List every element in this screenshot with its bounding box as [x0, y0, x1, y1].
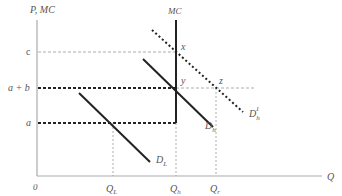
demand-curve-high-shifted [152, 30, 243, 112]
price-label-a-plus-b: a + b [8, 82, 30, 93]
mc-label: MC [167, 6, 182, 16]
demand-low-label: DL [155, 154, 167, 168]
demand-curve-high [143, 59, 213, 127]
point-x-label: x [180, 41, 186, 52]
economics-diagram: P, MC Q 0 c a + b a MC DL Dh Dh1 x y z Q… [0, 0, 342, 196]
q-r-label: Qr [210, 183, 220, 196]
price-label-a: a [26, 117, 31, 128]
x-axis-label: Q [327, 171, 335, 182]
demand-high-label: Dh [204, 120, 216, 134]
demand-curve-low [79, 93, 150, 162]
origin-label: 0 [33, 182, 38, 192]
demand-high-shifted-label: Dh1 [248, 105, 260, 122]
point-y-label: y [180, 75, 186, 86]
q-l-label: QL [106, 183, 117, 196]
point-z-label: z [218, 75, 223, 86]
price-label-c: c [26, 46, 31, 57]
y-axis-label: P, MC [29, 4, 55, 15]
q-h-label: Qh [170, 183, 181, 196]
